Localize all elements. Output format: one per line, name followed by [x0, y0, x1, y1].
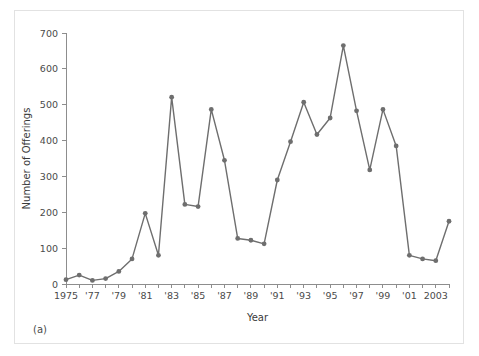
y-tick-label: 0 — [52, 279, 58, 290]
x-tick-label: '87 — [217, 290, 232, 301]
data-point-marker — [315, 132, 320, 137]
x-tick-label: '79 — [111, 290, 126, 301]
data-point-marker — [341, 43, 346, 48]
x-tick-label: '01 — [402, 290, 417, 301]
x-tick-label: '77 — [85, 290, 100, 301]
figure-panel: 01002003004005006007001975'77'79'81'83'8… — [14, 10, 464, 344]
x-tick-label: '95 — [323, 290, 338, 301]
data-point-marker — [407, 253, 412, 258]
data-point-marker — [367, 168, 372, 173]
y-tick-label: 700 — [40, 28, 58, 39]
data-point-marker — [209, 107, 214, 112]
x-axis-title: Year — [246, 312, 269, 323]
data-point-marker — [249, 238, 254, 243]
data-point-marker — [394, 144, 399, 149]
data-point-marker — [103, 276, 108, 281]
y-tick-label: 600 — [40, 63, 58, 74]
data-point-marker — [301, 100, 306, 105]
figure-caption: (a) — [33, 324, 47, 335]
x-tick-label: '85 — [191, 290, 206, 301]
data-point-marker — [447, 219, 452, 224]
y-tick-label: 500 — [40, 99, 58, 110]
y-tick-label: 300 — [40, 171, 58, 182]
y-tick-label: 100 — [40, 243, 58, 254]
data-point-marker — [77, 273, 82, 278]
y-tick-label: 400 — [40, 135, 58, 146]
x-tick-label: '81 — [138, 290, 153, 301]
x-tick-label: '91 — [270, 290, 285, 301]
y-tick-label: 200 — [40, 207, 58, 218]
series-line-offerings — [66, 46, 449, 281]
data-point-marker — [169, 95, 174, 100]
data-point-marker — [262, 241, 267, 246]
x-tick-label: 1975 — [54, 290, 78, 301]
data-point-marker — [433, 258, 438, 263]
x-tick-label: '89 — [244, 290, 259, 301]
x-tick-label: '83 — [164, 290, 179, 301]
data-point-marker — [222, 158, 227, 163]
data-point-marker — [288, 139, 293, 144]
data-point-marker — [64, 277, 69, 282]
x-tick-label: '99 — [376, 290, 391, 301]
data-point-marker — [116, 269, 121, 274]
data-point-marker — [235, 236, 240, 241]
x-tick-label: 2003 — [424, 290, 448, 301]
data-point-marker — [182, 202, 187, 207]
data-point-marker — [130, 257, 135, 262]
y-axis-title: Number of Offerings — [21, 108, 32, 210]
data-point-marker — [143, 211, 148, 216]
x-tick-label: '93 — [296, 290, 311, 301]
data-point-marker — [196, 204, 201, 209]
data-point-marker — [90, 278, 95, 283]
data-point-marker — [381, 107, 386, 112]
data-point-marker — [156, 253, 161, 258]
x-tick-label: '97 — [349, 290, 364, 301]
line-chart: 01002003004005006007001975'77'79'81'83'8… — [15, 11, 463, 343]
data-point-marker — [354, 108, 359, 113]
data-point-marker — [275, 178, 280, 183]
data-point-marker — [328, 116, 333, 121]
data-point-marker — [420, 257, 425, 262]
